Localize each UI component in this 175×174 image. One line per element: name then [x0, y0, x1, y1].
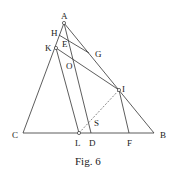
label-A: A — [61, 11, 68, 21]
label-K: K — [45, 43, 52, 53]
triangle-sides — [23, 23, 154, 133]
label-O: O — [66, 61, 73, 71]
point-A-marker — [62, 21, 65, 24]
point-labels: A H K E G O I S C L D F B — [12, 11, 166, 148]
label-C: C — [12, 130, 18, 140]
label-F: F — [127, 138, 132, 148]
point-I-marker — [117, 88, 120, 91]
point-L-marker — [77, 131, 80, 134]
label-E: E — [62, 39, 68, 49]
segment-AC — [23, 23, 64, 133]
label-H: H — [51, 28, 58, 38]
label-L: L — [75, 138, 81, 148]
label-I: I — [122, 84, 125, 94]
figure-caption: Fig. 6 — [75, 155, 101, 167]
label-G: G — [95, 49, 102, 59]
label-D: D — [89, 138, 96, 148]
point-K-marker — [54, 46, 57, 49]
label-S: S — [94, 118, 99, 128]
geometry-figure: A H K E G O I S C L D F B Fig. 6 — [0, 0, 175, 174]
label-B: B — [160, 130, 166, 140]
